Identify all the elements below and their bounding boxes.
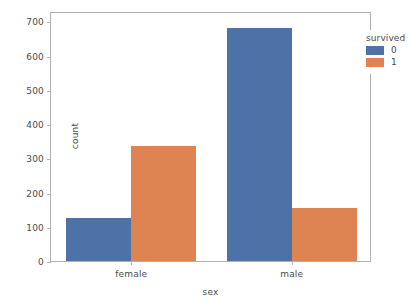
- x-tick-label: male: [280, 269, 303, 279]
- y-tick-mark: [47, 125, 51, 126]
- y-tick-mark: [47, 159, 51, 160]
- bar: [131, 146, 196, 261]
- legend: survived 01: [361, 30, 410, 74]
- x-tick-mark: [131, 261, 132, 265]
- y-tick-mark: [47, 194, 51, 195]
- x-axis-label: sex: [50, 287, 371, 297]
- y-tick-label: 400: [26, 120, 44, 130]
- y-tick-mark: [47, 228, 51, 229]
- y-tick-mark: [47, 262, 51, 263]
- clipped-top-text: [4, 0, 74, 5]
- y-tick-label: 600: [26, 52, 44, 62]
- y-tick-label: 500: [26, 86, 44, 96]
- plot-area: count 0100200300400500600700 femalemale …: [50, 12, 371, 262]
- y-tick-mark: [47, 57, 51, 58]
- y-tick-label: 100: [26, 223, 44, 233]
- x-tick-label: female: [115, 269, 147, 279]
- legend-title: survived: [366, 33, 410, 43]
- bar: [292, 208, 357, 261]
- legend-entry: 0: [366, 46, 410, 55]
- y-tick-label: 200: [26, 189, 44, 199]
- legend-entry: 1: [366, 58, 410, 67]
- legend-entries: 01: [366, 46, 410, 67]
- y-tick-label: 300: [26, 154, 44, 164]
- legend-label: 0: [391, 46, 397, 55]
- y-tick-mark: [47, 91, 51, 92]
- y-tick-mark: [47, 22, 51, 23]
- legend-swatch: [366, 58, 384, 67]
- legend-swatch: [366, 46, 384, 55]
- y-axis-label: count: [70, 106, 80, 166]
- legend-label: 1: [391, 58, 397, 67]
- bar: [227, 28, 292, 261]
- y-tick-label: 700: [26, 17, 44, 27]
- x-tick-mark: [292, 261, 293, 265]
- y-tick-label: 0: [38, 257, 44, 267]
- bar: [66, 218, 131, 261]
